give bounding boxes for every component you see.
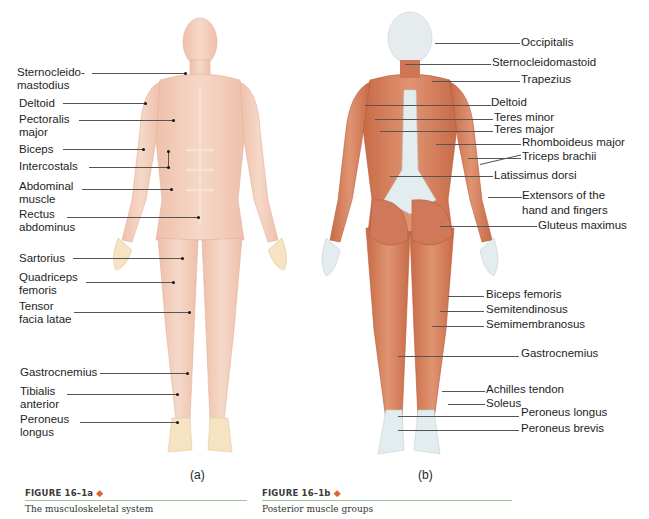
sublabel-a: (a) [190,468,205,482]
label-line: Pectoralis [19,113,70,126]
label-gastrocnemius: Gastrocnemius [20,366,97,379]
label-line: Tibialis [20,385,59,398]
label-soleus: Soleus [486,397,521,410]
label-quadriceps-femoris: Quadricepsfemoris [19,271,78,297]
leader-line [89,167,169,168]
leader-line [73,258,181,259]
label-semimembranosus: Semimembranosus [486,318,585,331]
leader-dot [167,150,170,153]
label-line: femoris [19,284,78,297]
label-line: Quadriceps [19,271,78,284]
label-line: facia latae [19,313,71,326]
leader-line [63,103,144,104]
leader-line [440,311,484,312]
leader-line [405,64,491,65]
leader-dot [197,216,200,219]
diamond-icon: ◆ [334,488,341,498]
leader-dot [184,72,187,75]
caption-a-heading: FIGURE 16–1a◆ [25,488,103,498]
label-deltoid: Deltoid [19,97,55,110]
label-line: hand and fingers [522,203,608,218]
leader-dot [176,393,179,396]
leader-line [398,430,519,431]
label-abdominal-muscle: Abdominalmuscle [19,180,73,206]
label-triceps-brachii: Triceps brachii [522,150,596,163]
caption-b-text: Posterior muscle groups [262,504,373,514]
diamond-icon: ◆ [96,488,103,498]
leader-line [63,149,142,150]
leader-line [79,120,172,121]
leader-line [80,422,176,423]
label-peroneus-longus: Peroneuslongus [20,413,69,439]
leader-dot [172,119,175,122]
leader-line [468,158,521,159]
label-tibialis-anterior: Tibialisanterior [20,385,59,411]
leader-line [488,197,522,198]
leader-dot [186,372,189,375]
caption-a-number: FIGURE 16–1a [25,488,93,498]
label-line: muscle [19,193,73,206]
label-line: Peroneus [20,413,69,426]
label-tensor-facia-latae: Tensorfacia latae [19,300,71,326]
leader-line [435,43,520,44]
leader-dot [188,311,191,314]
label-line: mastodius [17,79,85,92]
sublabel-b: (b) [418,468,433,482]
label-rectus-abdominus: Rectusabdominus [19,208,75,234]
label-deltoid-posterior: Deltoid [491,96,527,109]
label-occipitalis: Occipitalis [521,36,573,49]
leader-line [432,81,520,82]
leader-dot [144,102,147,105]
label-line: Tensor [19,300,71,313]
label-line: longus [20,426,69,439]
label-line: anterior [20,398,59,411]
label-biceps-femoris: Biceps femoris [486,288,561,301]
leader-line [390,176,493,177]
leader-line [398,356,519,357]
caption-a-text: The musculoskeletal system [25,504,153,514]
label-line: Abdominal [19,180,73,193]
leader-dot [167,166,170,169]
label-gastrocnemius-posterior: Gastrocnemius [521,347,598,360]
label-peroneus-longus-posterior: Peroneus longus [521,406,607,419]
leader-line [380,131,493,132]
leader-line [365,105,491,106]
label-biceps: Biceps [19,143,54,156]
label-peroneus-brevis: Peroneus brevis [521,422,604,435]
leader-line [67,394,176,395]
leader-line [398,416,519,417]
leader-line [436,144,521,145]
leader-dot [170,188,173,191]
label-latissimus-dorsi: Latissimus dorsi [494,169,576,182]
leader-line [432,326,484,327]
leader-line [100,373,186,374]
label-semitendinosus: Semitendinosus [486,303,568,316]
label-extensors: Extensors of thehand and fingers [522,188,608,218]
leader-dot [181,257,184,260]
leader-line [375,119,493,120]
label-sternocleidomastoid: Sternocleidomastoid [492,56,596,69]
leader-dot [142,148,145,151]
leader-line [67,217,197,218]
caption-b-number: FIGURE 16–1b [262,488,331,498]
label-line: Rectus [19,208,75,221]
leader-line [442,391,485,392]
label-trapezius: Trapezius [521,73,571,86]
leader-line [74,312,188,313]
label-line: Sternocleido- [17,66,85,79]
label-sartorius: Sartorius [19,252,65,265]
caption-b-heading: FIGURE 16–1b◆ [262,488,341,498]
leader-dot [176,421,179,424]
label-sternocleidomastodius: Sternocleido-mastodius [17,66,85,92]
leader-line [440,226,537,227]
leader-line [82,189,170,190]
label-gluteus-maximus: Gluteus maximus [538,219,627,232]
label-line: abdominus [19,221,75,234]
leader-line [448,404,485,405]
label-intercostals: Intercostals [19,160,78,173]
label-pectoralis-major: Pectoralismajor [19,113,70,139]
label-teres-major: Teres major [494,123,554,136]
leader-line [448,296,484,297]
caption-b-rule [262,500,512,501]
leader-line [86,282,172,283]
